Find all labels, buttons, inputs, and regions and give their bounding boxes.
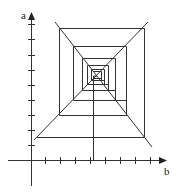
cobweb-boxes	[37, 29, 145, 138]
cobweb-spiral	[94, 76, 98, 160]
x-axis-arrow-icon	[159, 157, 167, 164]
diagonal-line-2	[34, 22, 148, 140]
y-axis-label: a	[21, 10, 26, 21]
diagram-canvas	[0, 0, 178, 194]
x-axis-label: b	[164, 166, 170, 177]
y-axis-arrow-icon	[28, 12, 35, 20]
cobweb-diagram: a b	[0, 0, 178, 194]
